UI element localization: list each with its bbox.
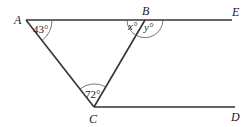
angle-label-a: 43°: [33, 23, 48, 35]
angle-label-y: y°: [143, 21, 154, 33]
point-label-e: E: [231, 5, 240, 19]
geometry-diagram: A B E C D 43° 72° x° y°: [0, 0, 247, 127]
angle-label-c: 72°: [85, 88, 100, 100]
point-label-a: A: [13, 13, 22, 27]
point-label-b: B: [142, 4, 150, 18]
point-label-d: D: [230, 110, 240, 124]
angle-label-x: x°: [127, 20, 138, 32]
point-label-c: C: [89, 112, 98, 126]
line-cb: [94, 20, 145, 107]
